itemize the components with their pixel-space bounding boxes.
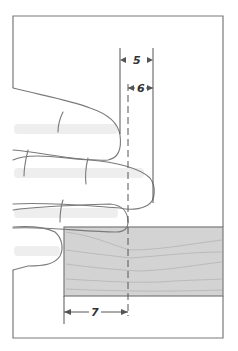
dimension-5: 5 (120, 54, 153, 67)
arrow-left-icon (128, 85, 134, 91)
dimension-label-5: 5 (133, 54, 141, 67)
index-finger (13, 156, 154, 209)
hand-measurement-diagram: 5 6 7 (0, 0, 238, 351)
board (64, 227, 223, 296)
arrow-right-icon (121, 309, 128, 315)
dimension-label-7: 7 (91, 306, 99, 319)
dimension-6: 6 (128, 81, 153, 95)
arrow-right-icon (120, 57, 126, 63)
arrow-left-icon (64, 309, 71, 315)
dimension-label-6: 6 (137, 82, 145, 95)
dimension-7: 7 (64, 305, 128, 319)
arrow-left-icon (147, 57, 153, 63)
arrow-right-icon (147, 85, 153, 91)
